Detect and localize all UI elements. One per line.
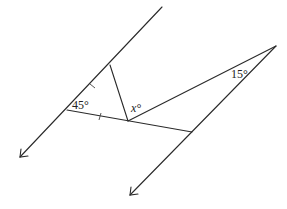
tick-mark-lower (99, 113, 101, 120)
angle-label-x: x° (130, 101, 141, 115)
angle-label-15: 15° (231, 67, 248, 81)
segment-x-to-apex (128, 46, 276, 121)
tick-mark-upper (90, 84, 95, 88)
left-parallel-line (20, 7, 162, 157)
angle-label-45: 45° (72, 98, 89, 112)
segment-top-to-x (110, 65, 128, 121)
geometry-diagram: 45° x° 15° (0, 0, 287, 209)
transversal-line (67, 110, 192, 132)
right-parallel-line (130, 46, 276, 195)
